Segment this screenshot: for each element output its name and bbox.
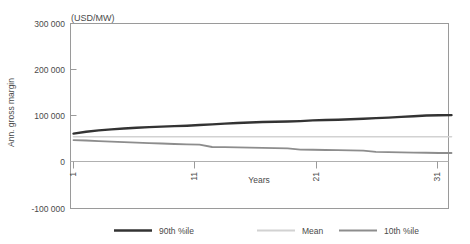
y-tick-label-300000: 300 000 [34, 19, 65, 29]
y-axis-title: Ann. gross margin [6, 78, 16, 147]
x-tick-label-31: 31 [432, 172, 442, 182]
chart-legend: 90th %ile Mean 10th %ile [114, 226, 419, 236]
x-tick-label-21: 21 [311, 172, 321, 182]
y-axis-ticks [71, 24, 77, 209]
x-axis-title: Years [248, 175, 269, 185]
y-tick-label-200000: 200 000 [34, 65, 65, 75]
data-series-layer [74, 115, 452, 153]
y-axis: 300 000 200 000 100 000 0 -100 000 [31, 19, 76, 214]
series-line-90th-ile [74, 115, 452, 133]
x-tick-label-11: 11 [189, 172, 199, 181]
annual-gross-margin-line-chart: 300 000 200 000 100 000 0 -100 000 Ann. … [0, 0, 470, 244]
y-tick-label-minus100000: -100 000 [31, 204, 65, 214]
series-line-10th-ile [74, 140, 452, 153]
y-tick-label-0: 0 [60, 157, 65, 167]
legend-label-mean: Mean [302, 226, 324, 236]
chart-figure: 300 000 200 000 100 000 0 -100 000 Ann. … [0, 0, 470, 244]
legend-label-10th-pctile: 10th %ile [384, 226, 419, 236]
x-tick-label-1: 1 [68, 172, 78, 177]
y-tick-label-100000: 100 000 [34, 111, 65, 121]
legend-label-90th-pctile: 90th %ile [159, 226, 194, 236]
x-axis-ticks [74, 162, 438, 169]
unit-label: (USD/MW) [71, 13, 115, 23]
